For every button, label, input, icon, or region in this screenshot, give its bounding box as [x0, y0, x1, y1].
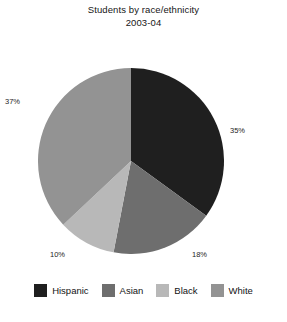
slice-label-hispanic: 35%	[230, 126, 245, 135]
slice-label-asian: 18%	[192, 250, 207, 259]
legend-item-black: Black	[156, 284, 197, 297]
legend-item-asian: Asian	[102, 284, 144, 297]
legend-swatch-icon	[102, 284, 115, 297]
legend-label: Black	[174, 285, 197, 296]
slice-label-black: 10%	[50, 250, 65, 259]
chart-legend: Hispanic Asian Black White	[0, 284, 287, 297]
pie-plot-area	[38, 68, 224, 254]
chart-subtitle: 2003-04	[0, 16, 287, 29]
page-title: Students by race/ethnicity	[0, 3, 287, 16]
legend-label: Hispanic	[52, 285, 88, 296]
legend-label: Asian	[120, 285, 144, 296]
legend-item-white: White	[211, 284, 253, 297]
legend-label: White	[229, 285, 253, 296]
pie-slice-group	[38, 68, 224, 254]
chart-title-block: Students by race/ethnicity 2003-04	[0, 3, 287, 29]
slice-label-white: 37%	[5, 97, 20, 106]
pie-svg	[38, 68, 224, 254]
pie-chart-figure: Students by race/ethnicity 2003-04 35% 1…	[0, 0, 287, 322]
footer-fragment	[0, 314, 287, 322]
legend-item-hispanic: Hispanic	[34, 284, 88, 297]
legend-swatch-icon	[34, 284, 47, 297]
legend-swatch-icon	[211, 284, 224, 297]
legend-swatch-icon	[156, 284, 169, 297]
